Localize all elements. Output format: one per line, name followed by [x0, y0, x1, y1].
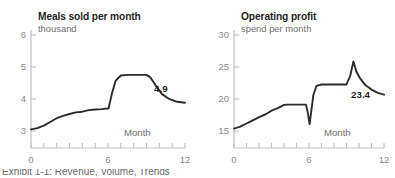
end-value-label-meals-sold: 4.9	[154, 83, 168, 94]
figure-container: Meals sold per month thousand 6 5 4 3 0 …	[0, 0, 395, 178]
y-tick-marks	[234, 35, 239, 131]
y-tick-label-30: 30	[202, 29, 229, 40]
x-tick-label-0: 0	[224, 154, 244, 165]
x-axis-name-meals-sold: Month	[124, 127, 151, 138]
y-tick-label-3: 3	[8, 125, 26, 136]
chart-title-operating-profit: Operating profit	[241, 11, 316, 22]
x-tick-label-6: 6	[98, 154, 118, 165]
y-tick-label-25: 25	[202, 61, 229, 72]
x-tick-label-12: 12	[175, 154, 195, 165]
end-value-label-operating-profit: 23.4	[351, 89, 370, 100]
y-tick-label-5: 5	[8, 61, 26, 72]
y-tick-marks	[31, 35, 36, 131]
x-tick-marks	[234, 143, 384, 148]
caption-strip: Exhibit 1-1: Revenue, Volume, Trends	[0, 169, 395, 178]
chart-panel-meals-sold: Meals sold per month thousand 6 5 4 3 0 …	[0, 0, 197, 178]
chart-title-meals-sold: Meals sold per month	[38, 11, 141, 22]
chart-subtitle-operating-profit: spend per month	[241, 23, 311, 34]
y-tick-label-6: 6	[8, 29, 26, 40]
y-tick-label-4: 4	[8, 93, 26, 104]
caption-text: Exhibit 1-1: Revenue, Volume, Trends	[2, 169, 170, 177]
x-tick-label-12: 12	[374, 154, 394, 165]
y-tick-label-20: 20	[202, 93, 229, 104]
x-tick-label-0: 0	[21, 154, 41, 165]
x-tick-label-6: 6	[299, 154, 319, 165]
x-axis-name-operating-profit: Month	[324, 127, 351, 138]
y-tick-label-15: 15	[202, 125, 229, 136]
chart-subtitle-meals-sold: thousand	[38, 23, 77, 34]
chart-panel-operating-profit: Operating profit spend per month 30 25 2…	[198, 0, 395, 178]
x-tick-marks	[31, 143, 185, 148]
